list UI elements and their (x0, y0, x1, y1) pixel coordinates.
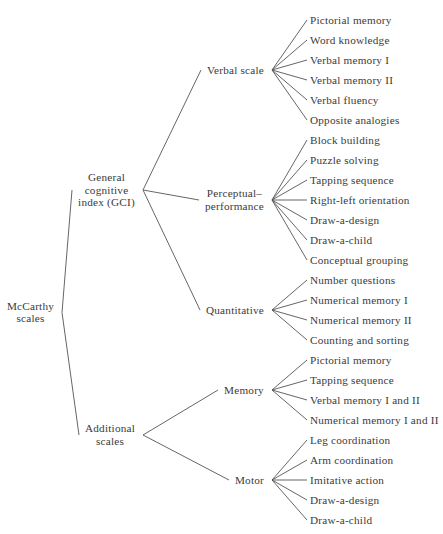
tree-leaf-label: Right-left orientation (310, 194, 410, 207)
connector-quantitative-leaf (272, 310, 307, 340)
tree-node-memory: Memory (224, 384, 264, 397)
tree-node-quantitative: Quantitative (206, 304, 264, 317)
connector-general-cognitive-index-quantitative (143, 190, 200, 310)
tree-leaf-label: Numerical memory I (310, 294, 408, 307)
connector-general-cognitive-index-verbal-scale (143, 70, 201, 190)
tree-leaf-label: Draw-a-child (310, 514, 372, 527)
connector-root-additional-scales (62, 313, 79, 436)
tree-node-general-cognitive-index: General cognitive index (GCI) (78, 171, 135, 209)
connector-perceptual-performance-leaf (272, 160, 307, 200)
tree-leaf-label: Draw-a-child (310, 234, 372, 247)
connector-additional-scales-memory (143, 390, 218, 435)
connector-perceptual-performance-leaf (272, 200, 307, 240)
tree-leaf-label: Arm coordination (310, 454, 393, 467)
tree-node-motor: Motor (235, 474, 264, 487)
tree-leaf-label: Leg coordination (310, 434, 390, 447)
tree-leaf-label: Tapping sequence (310, 374, 394, 387)
tree-leaf-label: Word knowledge (310, 34, 390, 47)
connector-memory-leaf (272, 360, 307, 390)
tree-leaf-label: Tapping sequence (310, 174, 394, 187)
connector-root-general-cognitive-index (62, 190, 72, 313)
tree-leaf-label: Draw-a-design (310, 214, 379, 227)
tree-leaf-label: Verbal fluency (310, 94, 379, 107)
tree-leaf-label: Numerical memory I and II (310, 414, 439, 427)
tree-leaf-label: Pictorial memory (310, 14, 392, 27)
connector-perceptual-performance-leaf (272, 200, 307, 220)
tree-node-perceptual-performance: Perceptual– performance (205, 187, 264, 212)
tree-leaf-label: Number questions (310, 274, 395, 287)
connector-motor-leaf (272, 440, 307, 480)
connector-perceptual-performance-leaf (272, 180, 307, 200)
tree-leaf-label: Verbal memory II (310, 74, 393, 87)
tree-leaf-label: Verbal memory I and II (310, 394, 420, 407)
tree-leaf-label: Conceptual grouping (310, 254, 408, 267)
connector-memory-leaf (272, 390, 307, 420)
tree-diagram: Pictorial memoryWord knowledgeVerbal mem… (0, 0, 443, 534)
connector-motor-leaf (272, 480, 307, 520)
connector-general-cognitive-index-perceptual-performance (143, 190, 199, 200)
connector-additional-scales-motor (143, 435, 229, 480)
tree-leaf-label: Imitative action (310, 474, 384, 487)
connector-quantitative-leaf (272, 280, 307, 310)
connector-perceptual-performance-leaf (272, 200, 307, 260)
tree-node-verbal-scale: Verbal scale (207, 64, 264, 77)
connector-motor-leaf (272, 460, 307, 480)
tree-leaf-label: Pictorial memory (310, 354, 392, 367)
tree-leaf-label: Puzzle solving (310, 154, 379, 167)
tree-leaf-label: Block building (310, 134, 380, 147)
tree-leaf-label: Opposite analogies (310, 114, 399, 127)
connector-perceptual-performance-leaf (272, 140, 307, 200)
tree-leaf-label: Numerical memory II (310, 314, 412, 327)
connector-motor-leaf (272, 480, 307, 500)
tree-node-additional-scales: Additional scales (85, 422, 135, 447)
tree-leaf-label: Verbal memory I (310, 54, 389, 67)
tree-node-mccarthy-scales: McCarthy scales (7, 300, 54, 325)
tree-leaf-label: Draw-a-design (310, 494, 379, 507)
tree-leaf-label: Counting and sorting (310, 334, 409, 347)
